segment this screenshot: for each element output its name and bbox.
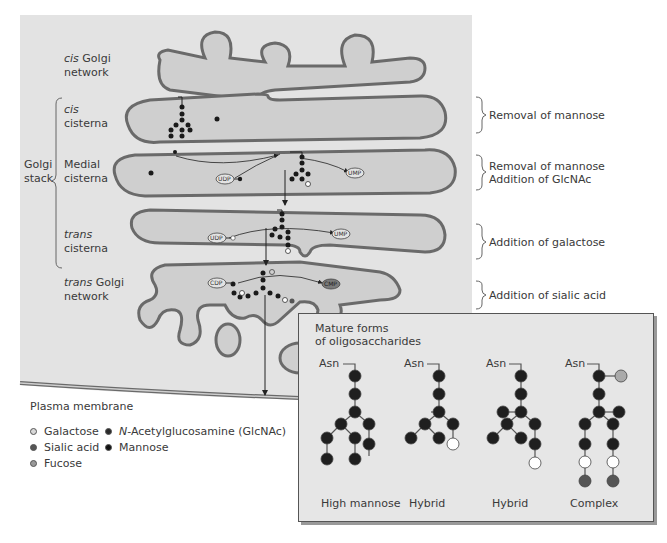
legend-item-glcnac: N-Acetylglucosamine (GlcNAc) [105, 425, 286, 438]
legend-item-galactose: Galactose [30, 425, 99, 438]
caption-hybrid: Hybrid [492, 497, 528, 510]
udp-label: UDP [218, 175, 231, 182]
sialic-acid-icon [30, 444, 37, 451]
galactose-icon [30, 428, 37, 435]
caption-hybrid: Hybrid [409, 497, 445, 510]
process-medial: Removal of mannose Addition of GlcNAc [489, 160, 605, 186]
process-trans: Addition of galactose [489, 236, 605, 249]
glcnac-icon [105, 428, 112, 435]
udp-label: UDP [210, 234, 223, 241]
caption-high-mannose: High mannose [321, 497, 400, 510]
caption-complex: Complex [570, 497, 618, 510]
label-golgi-stack: Golgi stack [24, 158, 53, 186]
fucose-icon [30, 460, 37, 467]
cmp-label: CMP [324, 280, 337, 287]
process-braces [476, 97, 486, 309]
mannose-icon [105, 444, 112, 451]
legend-item-sialic-acid: Sialic acid [30, 441, 99, 454]
process-cis: Removal of mannose [489, 109, 605, 122]
process-tgn: Addition of sialic acid [489, 289, 606, 302]
label-cis-cisterna: cis cisterna [64, 103, 108, 131]
oligosaccharide-structures [299, 314, 653, 521]
cis-cisterna [126, 94, 445, 142]
ump-label: UMP [348, 169, 361, 176]
label-trans-golgi-network: trans Golgi network [64, 276, 124, 304]
ump-label: UMP [334, 230, 347, 237]
cdp-label: CDP [210, 279, 222, 286]
label-medial-cisterna: Medial cisterna [64, 158, 108, 186]
mature-forms-panel: Mature forms of oligosaccharides Asn Asn… [298, 313, 654, 522]
legend-item-mannose: Mannose [105, 441, 168, 454]
label-trans-cisterna: trans cisterna [64, 228, 108, 256]
vesicle [216, 324, 240, 356]
label-cis-golgi-network: cis Golgi network [64, 52, 111, 80]
plasma-membrane-label: Plasma membrane [30, 400, 133, 414]
legend-item-fucose: Fucose [30, 457, 82, 470]
